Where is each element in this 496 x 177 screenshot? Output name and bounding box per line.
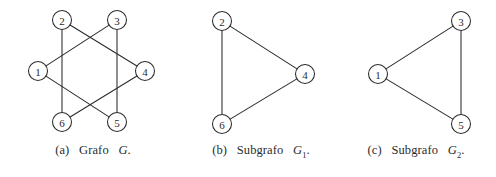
graph-edge-5-1	[46, 76, 109, 117]
graph-node-4[interactable]: 4	[296, 65, 315, 84]
graph-node-1[interactable]: 1	[369, 65, 388, 84]
node-label-5: 5	[114, 117, 120, 129]
graph-edge-5-1	[386, 79, 453, 119]
graph-canvas-a: 123456	[0, 0, 186, 140]
graph-node-2[interactable]: 2	[53, 11, 72, 30]
caption-a-tag: (a)	[55, 143, 69, 157]
caption-b-tag: (b)	[212, 143, 227, 157]
graph-g-svg: 123456	[0, 0, 186, 140]
graph-g2-svg: 135	[336, 0, 496, 140]
graph-node-5[interactable]: 5	[452, 115, 471, 134]
graph-edge-4-6	[70, 76, 137, 117]
caption-b-period: .	[307, 143, 310, 157]
node-layer: 135	[369, 12, 471, 134]
caption-a-word: Grafo	[79, 143, 109, 157]
subfigure-b: 246 (b) Subgrafo G1.	[186, 0, 336, 177]
graph-node-6[interactable]: 6	[53, 113, 72, 132]
graph-edge-2-4	[70, 25, 137, 66]
node-label-3: 3	[458, 16, 464, 28]
node-label-4: 4	[142, 66, 148, 78]
graph-node-5[interactable]: 5	[108, 113, 127, 132]
graph-node-3[interactable]: 3	[108, 11, 127, 30]
node-label-6: 6	[219, 119, 225, 131]
caption-a-symbol: G	[118, 143, 127, 157]
node-label-5: 5	[458, 119, 464, 131]
caption-c: (c) Subgrafo G2.	[336, 143, 496, 160]
caption-b: (b) Subgrafo G1.	[186, 143, 336, 160]
caption-a-period: .	[128, 143, 131, 157]
node-label-2: 2	[219, 16, 225, 28]
node-label-1: 1	[375, 69, 381, 81]
graph-edge-1-3	[386, 26, 453, 69]
graph-node-1[interactable]: 1	[29, 62, 48, 81]
subfigure-a: 123456 (a) Grafo G.	[0, 0, 186, 177]
figure-row: 123456 (a) Grafo G. 246 (b) Subgrafo G1.…	[0, 0, 496, 177]
graph-node-2[interactable]: 2	[213, 12, 232, 31]
graph-edge-1-3	[46, 25, 109, 66]
edge-layer	[46, 25, 137, 117]
node-layer: 246	[213, 12, 315, 134]
caption-c-tag: (c)	[368, 143, 382, 157]
edge-layer	[386, 26, 461, 119]
caption-c-symbol: G	[448, 143, 457, 157]
caption-c-word: Subgrafo	[391, 143, 438, 157]
caption-c-period: .	[461, 143, 464, 157]
graph-edge-2-4	[230, 26, 297, 69]
graph-canvas-c: 135	[336, 0, 496, 140]
node-label-2: 2	[59, 15, 65, 27]
graph-g1-svg: 246	[186, 0, 336, 140]
graph-node-3[interactable]: 3	[452, 12, 471, 31]
caption-b-word: Subgrafo	[237, 143, 284, 157]
graph-edge-4-6	[230, 79, 297, 119]
graph-node-6[interactable]: 6	[213, 115, 232, 134]
node-label-6: 6	[59, 117, 65, 129]
subfigure-c: 135 (c) Subgrafo G2.	[336, 0, 496, 177]
caption-a: (a) Grafo G.	[0, 143, 186, 158]
caption-b-symbol: G	[293, 143, 302, 157]
graph-node-4[interactable]: 4	[136, 62, 155, 81]
node-label-1: 1	[35, 66, 41, 78]
node-layer: 123456	[29, 11, 155, 132]
node-label-3: 3	[114, 15, 120, 27]
graph-canvas-b: 246	[186, 0, 336, 140]
node-label-4: 4	[302, 69, 308, 81]
edge-layer	[222, 26, 297, 119]
